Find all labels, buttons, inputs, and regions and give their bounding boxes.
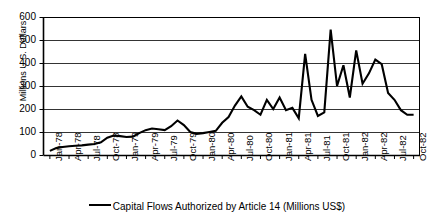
x-tick-label: Jul-82 (398, 135, 408, 161)
x-tick-label: Jul-80 (245, 135, 255, 161)
x-tick-label: Apr-81 (303, 132, 313, 161)
x-tick-label: Jul-81 (322, 135, 332, 161)
legend-label: Capital Flows Authorized by Article 14 (… (113, 201, 345, 212)
y-tick-label: 200 (8, 104, 36, 114)
x-tick-label: Apr-78 (73, 132, 83, 161)
chart-screenshot: Millions U.S. Dollars 010020030040050060… (0, 0, 434, 224)
y-tick-label: 100 (8, 127, 36, 137)
x-tick-label: Jul-79 (169, 135, 179, 161)
x-tick-label: Jan-80 (207, 132, 217, 161)
x-tick-label: Oct-81 (341, 132, 351, 161)
x-tick-label: Apr-79 (150, 132, 160, 161)
x-tick-label: Jan-78 (54, 132, 64, 161)
x-tick-label: Jan-82 (360, 132, 370, 161)
y-tick-label: 300 (8, 81, 36, 91)
x-tick-label: Apr-82 (379, 132, 389, 161)
legend-line-swatch (89, 204, 111, 206)
x-tick-label: Oct-80 (264, 132, 274, 161)
y-tick-label: 400 (8, 58, 36, 68)
x-tick-label: Apr-80 (226, 132, 236, 161)
chart-legend: Capital Flows Authorized by Article 14 (… (0, 200, 434, 212)
plot-canvas (0, 0, 434, 224)
y-tick-label: 0 (8, 150, 36, 160)
x-tick-label: Oct-79 (188, 132, 198, 161)
x-tick-label: Jan-81 (284, 132, 294, 161)
gridlines (44, 41, 421, 133)
x-tick-label: Oct-78 (111, 132, 121, 161)
x-tick-label: Jul-78 (92, 135, 102, 161)
line-chart: Millions U.S. Dollars 010020030040050060… (0, 0, 434, 224)
y-tick-label: 500 (8, 35, 36, 45)
y-tick-label: 600 (8, 12, 36, 22)
x-tick-label: Oct-82 (418, 132, 428, 161)
x-tick-label: Jan-79 (130, 132, 140, 161)
